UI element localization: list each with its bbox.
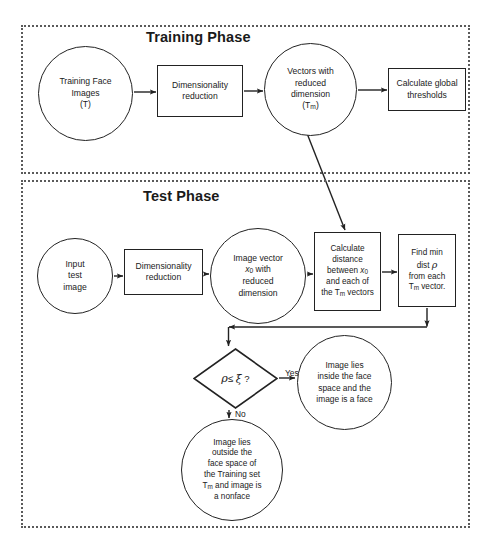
find-min-line-3: from each	[409, 272, 445, 281]
vectors-line-2: reduced	[295, 78, 326, 88]
decision-operator: ≤	[228, 373, 233, 384]
calc-distance-line-3-pre: between	[327, 266, 360, 275]
node-image-inside-face-space[interactable]: Image lies inside the face space and the…	[297, 335, 392, 430]
node-image-vector-label: Image vectorx0 withreduceddimension	[211, 253, 305, 299]
calc-distance-line-2: distance	[332, 255, 363, 264]
node-calculate-distance-label: Calculatedistancebetween x0and each ofth…	[315, 244, 380, 298]
find-min-line-2-pre: dist	[417, 261, 432, 270]
node-calculate-global-thresholds[interactable]: Calculate global thresholds	[388, 68, 466, 111]
node-test-dimensionality-reduction[interactable]: Dimensionality reduction	[124, 249, 203, 295]
nonface-line-3: face space of	[208, 459, 257, 468]
node-training-face-images-label: Training Face Images (T)	[39, 76, 132, 110]
node-calculate-global-thresholds-label: Calculate global thresholds	[389, 78, 465, 101]
calc-distance-line-5-pre: the T	[321, 288, 340, 297]
vectors-line-1: Vectors with	[287, 66, 333, 76]
node-image-outside-face-space-label: Image liesoutside theface space ofthe Tr…	[182, 438, 282, 503]
node-decision-rho-threshold[interactable]: ρ≤ ξ ?	[193, 348, 278, 409]
vectors-line-4-post: )	[316, 100, 319, 110]
node-training-dimensionality-reduction[interactable]: Dimensionality reduction	[157, 65, 243, 117]
image-vector-line-3: reduced	[242, 276, 273, 286]
nonface-line-1: Image lies	[213, 438, 250, 447]
find-min-line-4-post: vector.	[419, 282, 445, 291]
training-phase-title: Training Phase	[146, 29, 251, 45]
decision-xi-symbol: ξ	[236, 373, 242, 385]
node-training-face-images[interactable]: Training Face Images (T)	[38, 46, 133, 141]
node-calculate-distance[interactable]: Calculatedistancebetween x0and each ofth…	[314, 232, 381, 311]
node-input-test-image-label: Input test image	[38, 259, 112, 293]
image-vector-line-2-post: with	[253, 264, 271, 274]
image-vector-line-4: dimension	[238, 288, 277, 298]
node-image-inside-face-space-label: Image lies inside the face space and the…	[298, 360, 391, 404]
node-training-dimensionality-reduction-label: Dimensionality reduction	[158, 80, 242, 103]
find-min-rho-symbol: ρ	[432, 259, 438, 270]
node-decision-label: ρ≤ ξ ?	[193, 348, 278, 409]
nonface-line-4: the Training set	[204, 470, 260, 479]
image-vector-line-1: Image vector	[233, 253, 283, 263]
nonface-line-6: a nonface	[214, 492, 250, 501]
decision-question-mark: ?	[244, 373, 249, 384]
calc-distance-line-4: and each of	[326, 277, 369, 286]
node-test-dimensionality-reduction-label: Dimensionality reduction	[125, 261, 202, 284]
node-input-test-image[interactable]: Input test image	[37, 238, 113, 314]
test-phase-title: Test Phase	[143, 188, 220, 204]
nonface-line-2: outside the	[212, 448, 252, 457]
node-vectors-with-reduced-dimension[interactable]: Vectors withreduceddimension(Tm)	[264, 43, 357, 136]
node-vectors-with-reduced-dimension-label: Vectors withreduceddimension(Tm)	[265, 66, 356, 112]
calc-distance-line-3-sub: 0	[364, 268, 368, 275]
node-find-minimum-distance[interactable]: Find mindist ρfrom eachTm vector.	[398, 234, 456, 307]
node-image-vector-reduced-dimension[interactable]: Image vectorx0 withreduceddimension	[210, 228, 306, 324]
node-image-outside-face-space-nonface[interactable]: Image liesoutside theface space ofthe Tr…	[181, 419, 283, 521]
calc-distance-line-5-post: vectors	[345, 288, 374, 297]
calc-distance-line-1: Calculate	[330, 244, 364, 253]
nonface-line-5-post: and image is	[213, 481, 262, 490]
node-find-minimum-distance-label: Find mindist ρfrom eachTm vector.	[399, 248, 455, 293]
edge-label-no: No	[235, 409, 246, 419]
find-min-line-1: Find min	[411, 248, 442, 257]
vectors-line-3: dimension	[291, 89, 330, 99]
